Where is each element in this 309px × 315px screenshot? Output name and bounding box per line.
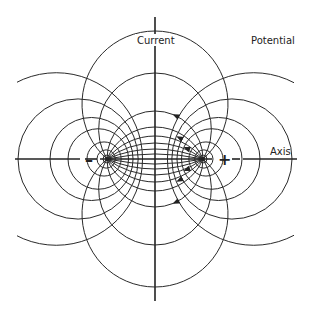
current-arrow-icon [173,199,180,204]
positive-sign: + [218,150,231,169]
axis-label: Axis [270,146,291,157]
potential-label: Potential [251,35,295,46]
current-arrow-icon [173,114,180,119]
negative-electrode [105,157,109,161]
dipole-field-diagram: Current Potential Axis – + [0,0,309,315]
negative-sign: – [85,150,93,169]
positive-electrode [201,157,205,161]
current-label: Current [137,35,175,46]
